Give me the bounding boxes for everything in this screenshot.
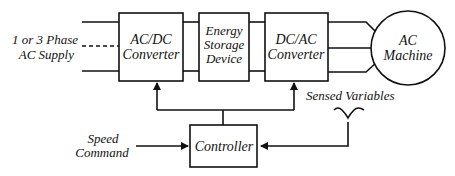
acdc-label-line2: Converter	[123, 47, 180, 62]
speed-command-line2: Command	[75, 145, 129, 160]
dc-link-2	[249, 22, 265, 71]
control-bus	[157, 83, 294, 125]
machine-label-line2: Machine	[383, 48, 433, 63]
brace-icon	[334, 108, 364, 118]
acdc-label-line1: AC/DC	[129, 32, 172, 47]
three-phase-lines	[328, 22, 377, 72]
sensed-variables-label: Sensed Variables	[306, 88, 394, 103]
drive-system-diagram: 1 or 3 Phase AC Supply AC/DC Converter E…	[0, 0, 455, 176]
machine-label-line1: AC	[398, 33, 418, 48]
supply-label-line2: AC Supply	[18, 47, 74, 62]
storage-label-line3: Device	[205, 51, 242, 66]
storage-label-line1: Energy	[204, 23, 242, 38]
supply-lines	[82, 22, 119, 71]
controller-label: Controller	[195, 139, 254, 154]
feedback-line	[261, 122, 348, 146]
dcac-label-line2: Converter	[268, 47, 325, 62]
dcac-label-line1: DC/AC	[274, 32, 317, 47]
supply-label-line1: 1 or 3 Phase	[12, 32, 78, 47]
storage-label-line2: Storage	[204, 37, 245, 52]
dc-link-1	[183, 22, 199, 71]
speed-command-line1: Speed	[87, 131, 119, 146]
